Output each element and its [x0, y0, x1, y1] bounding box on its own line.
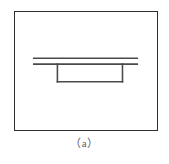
figure-frame-border: [14, 11, 158, 131]
figure-caption: （a）: [0, 136, 169, 150]
figure-panel: （a）: [0, 0, 169, 164]
pedestal-group: [57, 64, 122, 82]
technical-line-drawing: [15, 12, 157, 130]
slab-group: [34, 58, 138, 64]
